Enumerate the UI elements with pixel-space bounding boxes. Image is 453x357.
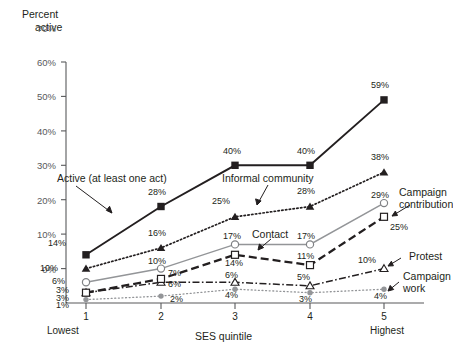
data-label-informal-1: 10% bbox=[40, 263, 58, 273]
data-label-informal-4: 28% bbox=[297, 186, 315, 196]
legend-campaign-work-line1: Campaign bbox=[403, 270, 451, 282]
contact-annotation: Contact bbox=[252, 228, 288, 240]
data-label-contribution-4: 11% bbox=[297, 251, 314, 261]
x-tick-label-1: 1 bbox=[71, 311, 101, 322]
data-label-contribution-3: 14% bbox=[225, 258, 243, 268]
legend-campaign-work-line2: work bbox=[403, 282, 425, 294]
data-label-active-4: 40% bbox=[297, 146, 315, 156]
y-tick-label-70: 70% bbox=[22, 23, 56, 34]
legend-campaign-contribution: Campaigncontribution bbox=[399, 186, 453, 210]
data-label-protest-4: 5% bbox=[297, 272, 310, 282]
x-tick-label-5: 5 bbox=[369, 311, 399, 322]
legend-protest: Protest bbox=[409, 250, 442, 262]
legend-campaign-work: Campaignwork bbox=[403, 270, 451, 294]
data-label-work-3: 4% bbox=[225, 290, 238, 300]
x-tick-label-3: 3 bbox=[220, 311, 250, 322]
data-label-contact-4: 17% bbox=[297, 231, 315, 241]
active-annotation: Active (at least one act) bbox=[57, 172, 167, 184]
data-label-work-4: 3% bbox=[299, 294, 312, 304]
x-tick-label-4: 4 bbox=[295, 311, 325, 322]
data-label-contribution-2: 7% bbox=[168, 268, 181, 278]
data-label-protest-3: 6% bbox=[225, 270, 238, 280]
informal-community-annotation: Informal community bbox=[222, 172, 314, 184]
data-label-active-2: 28% bbox=[148, 187, 166, 197]
data-label-contribution-5: 25% bbox=[390, 222, 408, 232]
y-tick-label-40: 40% bbox=[22, 126, 56, 137]
data-label-contact-5: 29% bbox=[371, 190, 389, 200]
x-axis-ticks bbox=[86, 303, 384, 309]
data-label-contact-3: 17% bbox=[223, 231, 241, 241]
y-tick-label-30: 30% bbox=[22, 160, 56, 171]
data-label-active-1: 14% bbox=[48, 238, 66, 248]
data-label-active-5: 59% bbox=[371, 80, 389, 90]
data-label-informal-5: 38% bbox=[371, 152, 389, 162]
legend-campaign-contribution-line2: contribution bbox=[399, 198, 453, 210]
data-label-informal-2: 16% bbox=[148, 228, 166, 238]
y-tick-label-20: 20% bbox=[22, 195, 56, 206]
y-tick-label-60: 60% bbox=[22, 57, 56, 68]
data-label-work-5: 4% bbox=[374, 291, 387, 301]
data-label-protest-5: 10% bbox=[358, 255, 376, 265]
data-label-protest-2: 6% bbox=[168, 279, 181, 289]
x-axis-title: SES quintile bbox=[0, 330, 447, 343]
x-tick-label-2: 2 bbox=[146, 311, 176, 322]
data-label-contact-2: 10% bbox=[148, 256, 166, 266]
legend-campaign-contribution-line1: Campaign bbox=[399, 186, 447, 198]
data-label-active-3: 40% bbox=[223, 146, 241, 156]
data-label-work-1: 1% bbox=[56, 300, 69, 310]
y-tick-label-50: 50% bbox=[22, 91, 56, 102]
data-label-informal-3: 25% bbox=[212, 196, 230, 206]
data-label-work-2: 2% bbox=[170, 294, 183, 304]
